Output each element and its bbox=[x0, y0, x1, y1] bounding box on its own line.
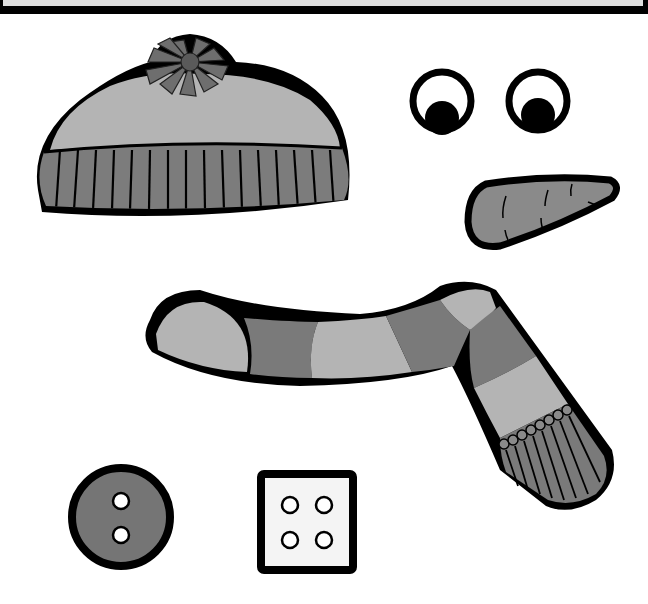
hat-piece[interactable] bbox=[37, 34, 350, 216]
button-square[interactable] bbox=[261, 474, 353, 570]
eye-right[interactable] bbox=[509, 72, 567, 132]
hat-ribbed-band bbox=[39, 144, 348, 209]
scarf[interactable] bbox=[145, 282, 614, 510]
carrot-nose[interactable] bbox=[468, 178, 617, 247]
eye-left[interactable] bbox=[413, 72, 471, 135]
button-round[interactable] bbox=[72, 468, 170, 566]
snowman-parts-canvas bbox=[0, 0, 648, 604]
